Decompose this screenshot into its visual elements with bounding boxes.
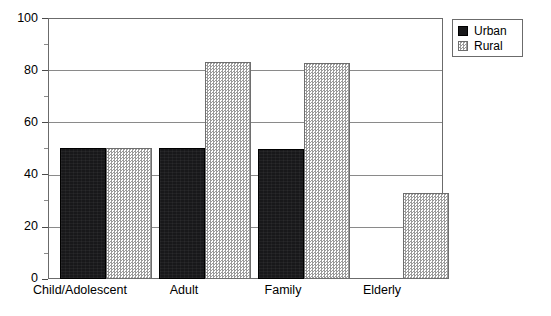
bar-urban-family[interactable]: [258, 149, 304, 279]
y-axis-tick-0: [42, 279, 48, 280]
bar-chart: 100 80 60 40 20 0 Child/Adolescent Adult…: [0, 0, 551, 316]
legend-item-rural[interactable]: Rural: [458, 39, 518, 53]
y-axis-label-60: 60: [24, 116, 38, 129]
legend: Urban Rural: [452, 19, 523, 57]
x-axis-label-elderly: Elderly: [337, 284, 427, 297]
x-axis-label-child-adolescent: Child/Adolescent: [10, 284, 150, 297]
y-axis-label-20: 20: [24, 220, 38, 233]
legend-swatch-urban-icon: [458, 26, 468, 36]
legend-swatch-rural-icon: [458, 41, 468, 51]
x-axis-label-adult: Adult: [139, 284, 229, 297]
legend-item-urban[interactable]: Urban: [458, 24, 518, 38]
bar-rural-child-adolescent[interactable]: [106, 148, 152, 279]
bar-rural-adult[interactable]: [205, 62, 251, 279]
x-axis-label-family: Family: [238, 284, 328, 297]
y-axis-label-40: 40: [24, 168, 38, 181]
legend-label-rural: Rural: [474, 40, 503, 52]
legend-label-urban: Urban: [474, 25, 507, 37]
bar-urban-child-adolescent[interactable]: [60, 148, 106, 279]
bar-urban-adult[interactable]: [159, 148, 205, 279]
bar-rural-family[interactable]: [304, 63, 350, 279]
bar-rural-elderly[interactable]: [403, 193, 449, 279]
y-axis-label-100: 100: [17, 12, 38, 25]
bars-layer: [48, 18, 443, 279]
y-axis-label-80: 80: [24, 64, 38, 77]
